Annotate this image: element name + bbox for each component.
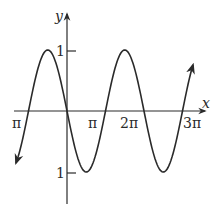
x-tick-label-neg-pi: π: [12, 116, 21, 130]
x-tick-label-3pi: 3π: [183, 116, 201, 130]
y-tick-label-bottom: 1: [56, 166, 65, 180]
y-tick-label-top: 1: [56, 44, 65, 58]
x-tick-label-pi: π: [88, 116, 97, 130]
y-axis-label: y: [55, 9, 63, 23]
x-tick-label-2pi: 2π: [120, 116, 138, 130]
sine-graph: [0, 0, 217, 214]
x-axis-label: x: [202, 96, 210, 110]
